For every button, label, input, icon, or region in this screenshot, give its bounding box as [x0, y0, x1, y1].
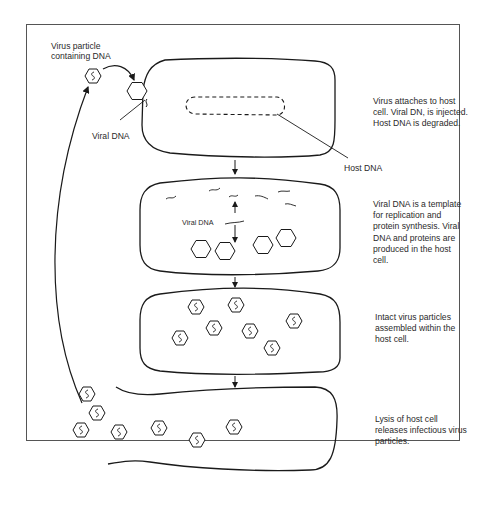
virus-particle-free	[85, 69, 101, 83]
host-cell-4-lysed	[108, 387, 337, 471]
step-assemble-text: Intact virus particles assembled within …	[375, 312, 470, 346]
label-viral-dna: Viral DNA	[92, 131, 130, 141]
step-lysis-text: Lysis of host cell releases infectious v…	[375, 414, 470, 448]
label-virus-particle: Virus particle containing DNA	[51, 41, 111, 62]
host-cell-1	[120, 58, 348, 158]
label-viral-dna-replication: Viral DNA	[182, 218, 213, 228]
host-dna-pointer	[277, 114, 348, 158]
released-virus-particles	[73, 387, 242, 447]
host-cell-3	[140, 288, 340, 374]
cycle-return-arrow	[55, 87, 88, 403]
host-cell-2	[140, 178, 340, 275]
viral-dna-pointer	[120, 100, 145, 120]
step-replicate-text: Viral DNA is a template for replication …	[373, 199, 468, 266]
virus-particle-attached	[127, 83, 147, 100]
step-attach-text: Virus attaches to host cell. Viral DN, i…	[373, 96, 468, 130]
label-host-dna: Host DNA	[344, 163, 382, 173]
host-dna-dashed	[186, 97, 285, 115]
